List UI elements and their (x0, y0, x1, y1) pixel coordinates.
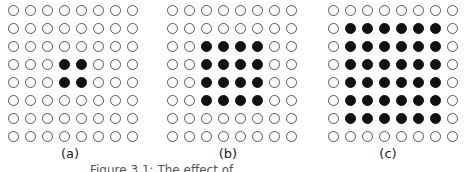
empty-dot (127, 23, 138, 34)
filled-dot (345, 23, 356, 34)
empty-dot (167, 59, 178, 70)
grid-b (167, 5, 297, 142)
filled-dot (413, 113, 424, 124)
empty-dot (269, 41, 280, 52)
empty-dot (235, 113, 246, 124)
empty-dot (93, 59, 104, 70)
empty-dot (110, 23, 121, 34)
empty-dot (252, 5, 263, 16)
empty-dot (328, 5, 339, 16)
filled-dot (59, 59, 70, 70)
empty-dot (127, 131, 138, 142)
empty-dot (184, 131, 195, 142)
empty-dot (328, 95, 339, 106)
empty-dot (42, 23, 53, 34)
empty-dot (252, 23, 263, 34)
empty-dot (447, 41, 458, 52)
filled-dot (396, 113, 407, 124)
empty-dot (396, 5, 407, 16)
empty-dot (127, 41, 138, 52)
empty-dot (76, 95, 87, 106)
filled-dot (235, 59, 246, 70)
empty-dot (42, 5, 53, 16)
filled-dot (413, 77, 424, 88)
filled-dot (252, 41, 263, 52)
empty-dot (447, 5, 458, 16)
filled-dot (345, 41, 356, 52)
empty-dot (413, 131, 424, 142)
empty-dot (110, 5, 121, 16)
filled-dot (362, 77, 373, 88)
empty-dot (345, 5, 356, 16)
empty-dot (328, 77, 339, 88)
empty-dot (345, 131, 356, 142)
empty-dot (127, 77, 138, 88)
empty-dot (8, 41, 19, 52)
empty-dot (447, 23, 458, 34)
empty-dot (25, 59, 36, 70)
filled-dot (379, 59, 390, 70)
empty-dot (328, 131, 339, 142)
empty-dot (42, 113, 53, 124)
empty-dot (269, 59, 280, 70)
filled-dot (396, 59, 407, 70)
empty-dot (8, 131, 19, 142)
panel-label-c: (c) (358, 146, 418, 161)
empty-dot (286, 23, 297, 34)
empty-dot (167, 5, 178, 16)
empty-dot (413, 5, 424, 16)
filled-dot (430, 59, 441, 70)
empty-dot (286, 59, 297, 70)
empty-dot (167, 131, 178, 142)
empty-dot (286, 77, 297, 88)
empty-dot (110, 59, 121, 70)
empty-dot (93, 23, 104, 34)
filled-dot (362, 113, 373, 124)
empty-dot (93, 5, 104, 16)
empty-dot (269, 95, 280, 106)
filled-dot (413, 95, 424, 106)
empty-dot (110, 77, 121, 88)
empty-dot (8, 113, 19, 124)
empty-dot (167, 23, 178, 34)
empty-dot (127, 95, 138, 106)
empty-dot (76, 23, 87, 34)
filled-dot (413, 59, 424, 70)
panel-label-a: (a) (40, 146, 100, 161)
empty-dot (286, 131, 297, 142)
empty-dot (59, 41, 70, 52)
empty-dot (25, 77, 36, 88)
empty-dot (379, 131, 390, 142)
empty-dot (25, 113, 36, 124)
empty-dot (286, 113, 297, 124)
filled-dot (396, 23, 407, 34)
empty-dot (286, 41, 297, 52)
grid-c (328, 5, 458, 142)
empty-dot (59, 113, 70, 124)
filled-dot (345, 59, 356, 70)
filled-dot (235, 77, 246, 88)
empty-dot (252, 113, 263, 124)
filled-dot (59, 77, 70, 88)
empty-dot (42, 41, 53, 52)
empty-dot (42, 95, 53, 106)
empty-dot (218, 5, 229, 16)
filled-dot (252, 77, 263, 88)
empty-dot (269, 131, 280, 142)
empty-dot (110, 113, 121, 124)
empty-dot (430, 5, 441, 16)
filled-dot (362, 41, 373, 52)
filled-dot (396, 77, 407, 88)
empty-dot (76, 131, 87, 142)
filled-dot (252, 59, 263, 70)
empty-dot (76, 41, 87, 52)
empty-dot (286, 95, 297, 106)
empty-dot (42, 59, 53, 70)
filled-dot (201, 95, 212, 106)
empty-dot (201, 5, 212, 16)
empty-dot (328, 23, 339, 34)
empty-dot (328, 59, 339, 70)
filled-dot (362, 23, 373, 34)
empty-dot (447, 95, 458, 106)
empty-dot (201, 113, 212, 124)
